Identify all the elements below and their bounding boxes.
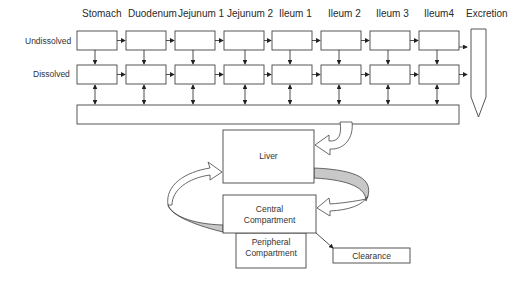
segment-label-ileum3: Ileum 3	[376, 8, 409, 19]
undissolved-label: Undissolved	[25, 36, 71, 46]
arrow-to-liver	[315, 122, 352, 155]
band-right	[314, 168, 369, 201]
arrow-up-left	[168, 162, 222, 205]
segment-label-jejunum2: Jejunum 2	[227, 8, 273, 19]
peripheral-label-2: Compartment	[236, 247, 306, 259]
band-left	[168, 205, 223, 232]
segment-label-duodenum: Duodenum	[128, 8, 177, 19]
excretion-shape	[471, 29, 486, 117]
segment-label-stomach: Stomach	[82, 8, 121, 19]
segment-label-ileum1: Ileum 1	[279, 8, 312, 19]
segment-label-ileum4: Ileum4	[424, 8, 454, 19]
excretion-label: Excretion	[466, 8, 508, 19]
segment-label-jejunum1: Jejunum 1	[178, 8, 224, 19]
arrow-to-central	[317, 196, 368, 216]
clearance-label: Clearance	[333, 250, 410, 262]
liver-label: Liver	[223, 150, 314, 162]
enterocyte-bar	[77, 105, 459, 124]
central-label-2: Compartment	[223, 214, 316, 226]
dissolved-label: Dissolved	[33, 69, 70, 79]
segment-label-ileum2: Ileum 2	[328, 8, 361, 19]
